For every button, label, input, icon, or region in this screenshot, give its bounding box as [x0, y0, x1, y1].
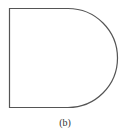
figure-caption: (b) [0, 117, 130, 128]
d-shape-diagram [0, 0, 130, 136]
d-shape-outline [10, 9, 118, 108]
